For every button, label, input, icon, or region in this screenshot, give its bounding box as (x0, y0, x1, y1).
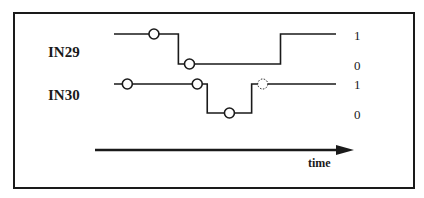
event-marker (122, 79, 132, 89)
time-axis: time (95, 145, 354, 170)
signal-name: IN29 (48, 44, 80, 60)
event-marker (224, 108, 234, 118)
timing-diagram: IN29 1 0 IN30 1 0 time (0, 0, 424, 198)
level-high-label: 1 (354, 28, 361, 43)
event-marker (192, 79, 202, 89)
time-axis-label: time (308, 156, 331, 170)
event-marker (149, 29, 159, 39)
level-low-label: 0 (354, 107, 361, 122)
level-high-label: 1 (354, 77, 361, 92)
event-marker (184, 59, 194, 69)
waveform-line (114, 84, 336, 113)
level-low-label: 0 (354, 58, 361, 73)
event-marker-dashed (258, 79, 268, 89)
signal-in30: IN30 1 0 (48, 77, 361, 122)
signal-in29: IN29 1 0 (48, 28, 361, 73)
waveform-line (114, 34, 336, 64)
arrow-head-icon (336, 145, 354, 155)
signal-name: IN30 (48, 87, 80, 103)
